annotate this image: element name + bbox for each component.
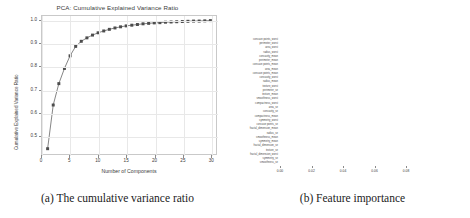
- chart-a-x-tickmark: [183, 155, 184, 158]
- chart-b-x-tick: 0.04: [331, 169, 355, 173]
- chart-a-y-tick: 1.0: [21, 17, 37, 22]
- chart-a-y-tickmark: [39, 43, 42, 44]
- chart-a-data-point: [130, 24, 133, 27]
- gridline-horizontal: [42, 137, 218, 138]
- chart-a-data-point: [85, 36, 88, 39]
- chart-a-data-point: [46, 147, 49, 150]
- chart-a-data-point: [80, 40, 83, 43]
- chart-a-data-point: [136, 23, 139, 26]
- chart-a-line: [48, 21, 211, 149]
- feature-label: fractal_dimension_mean: [236, 128, 278, 131]
- gridline-vertical: [42, 16, 43, 156]
- chart-a-y-tick: 0.5: [21, 133, 37, 138]
- feature-label: symmetry_worst: [236, 120, 278, 123]
- chart-a-data-point: [102, 29, 105, 32]
- feature-label: texture_worst: [236, 86, 278, 89]
- chart-b-x-tick: 0.06: [363, 169, 387, 173]
- gridline-vertical: [127, 16, 128, 156]
- gridline-horizontal: [42, 44, 218, 45]
- chart-a-y-tickmark: [39, 20, 42, 21]
- feature-label: smoothness_worst: [236, 98, 278, 101]
- chart-a-data-point: [91, 34, 94, 37]
- feature-label: radius_worst: [236, 52, 278, 55]
- chart-b-x-tickmark: [280, 166, 281, 168]
- chart-a-y-tick: 0.8: [21, 63, 37, 68]
- chart-a-plot-area: [41, 15, 217, 155]
- chart-a-x-axis-label: Number of Components: [41, 168, 217, 174]
- chart-a-x-tick: 15: [116, 158, 136, 163]
- gridline-horizontal: [42, 114, 218, 115]
- chart-b-x-tickmark: [343, 166, 344, 168]
- chart-a-data-point: [164, 21, 167, 24]
- chart-a-data-point: [119, 25, 122, 28]
- chart-a-data-point: [113, 26, 116, 29]
- feature-label: radius_mean: [236, 81, 278, 84]
- chart-a-data-point: [57, 82, 60, 85]
- panel-a-pca-variance: PCA: Cumulative Explained Variance Ratio…: [0, 0, 235, 186]
- chart-a-x-tick: 25: [173, 158, 193, 163]
- feature-label: radius_se: [236, 133, 278, 136]
- chart-a-x-tick: 20: [145, 158, 165, 163]
- gridline-vertical: [156, 16, 157, 156]
- feature-label: compactness_mean: [236, 116, 278, 119]
- feature-label: concavity_mean: [236, 56, 278, 59]
- gridline-horizontal: [42, 67, 218, 68]
- chart-a-x-tickmark: [155, 155, 156, 158]
- chart-a-title: PCA: Cumulative Explained Variance Ratio: [0, 4, 235, 11]
- chart-a-data-point: [158, 21, 161, 24]
- chart-a-y-tick: 0.6: [21, 110, 37, 115]
- feature-label: area_worst: [236, 47, 278, 50]
- chart-a-data-point: [108, 28, 111, 31]
- feature-label: compactness_worst: [236, 103, 278, 106]
- chart-a-data-point: [74, 45, 77, 48]
- chart-a-y-axis-label: Cumulative Explained Variance Ratio: [14, 75, 19, 151]
- feature-label: concavity_se: [236, 111, 278, 114]
- chart-a-y-tickmark: [39, 113, 42, 114]
- chart-a-y-tickmark: [39, 66, 42, 67]
- chart-a-x-tickmark: [211, 155, 212, 158]
- gridline-horizontal: [42, 21, 218, 22]
- chart-a-x-tick: 30: [201, 158, 221, 163]
- chart-b-x-tickmark: [375, 166, 376, 168]
- chart-b-x-tick: 0.02: [300, 169, 324, 173]
- chart-a-y-tick: 0.9: [21, 40, 37, 45]
- chart-b-x-tickmark: [406, 166, 407, 168]
- feature-label: fractal_dimension_se: [236, 145, 278, 148]
- two-panel-figure: PCA: Cumulative Explained Variance Ratio…: [0, 0, 470, 218]
- chart-a-data-point: [52, 104, 55, 107]
- chart-a-x-tickmark: [69, 155, 70, 158]
- caption-b: (b) Feature importance: [235, 192, 470, 204]
- chart-a-y-tick: 0.7: [21, 87, 37, 92]
- chart-a-y-tickmark: [39, 136, 42, 137]
- feature-label: concave points_worst: [236, 39, 278, 42]
- chart-b-x-tickmark: [312, 166, 313, 168]
- chart-a-x-tickmark: [41, 155, 42, 158]
- chart-a-x-tickmark: [98, 155, 99, 158]
- chart-a-x-tickmark: [126, 155, 127, 158]
- feature-label: texture_se: [236, 150, 278, 153]
- feature-label: concave points_mean: [236, 64, 278, 67]
- gridline-vertical: [184, 16, 185, 156]
- chart-b-x-tick: 0.08: [394, 169, 418, 173]
- feature-label: smoothness_se: [236, 162, 278, 165]
- chart-a-x-tick: 5: [59, 158, 79, 163]
- gridline-vertical: [212, 16, 213, 156]
- chart-a-x-tick: 10: [88, 158, 108, 163]
- gridline-vertical: [70, 16, 71, 156]
- chart-a-data-point: [142, 22, 145, 25]
- chart-a-x-tick: 0: [31, 158, 51, 163]
- chart-a-y-tickmark: [39, 90, 42, 91]
- gridline-horizontal: [42, 91, 218, 92]
- gridline-vertical: [99, 16, 100, 156]
- chart-a-line-series: [42, 16, 216, 154]
- panel-b-feature-importance: Feature Importance for Breast Cancer Dia…: [235, 0, 470, 186]
- caption-a: (a) The cumulative variance ratio: [0, 192, 235, 204]
- chart-b-x-tick: 0.00: [268, 169, 292, 173]
- chart-a-data-point: [147, 22, 150, 25]
- feature-label: area_mean: [236, 69, 278, 72]
